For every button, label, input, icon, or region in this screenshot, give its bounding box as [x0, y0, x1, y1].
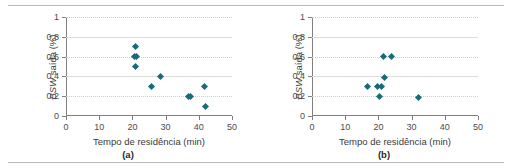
- y-tick-label-b: 1: [300, 12, 305, 22]
- x-tick-b: [312, 116, 313, 120]
- data-point-b: [380, 53, 387, 60]
- y-axis-title-b: BSW saída (%): [293, 34, 304, 99]
- data-point-b: [376, 93, 383, 100]
- x-tick-label-a: 50: [227, 122, 237, 132]
- x-tick-b: [345, 116, 346, 120]
- x-tick-label-b: 20: [373, 122, 383, 132]
- x-tick-label-a: 30: [161, 122, 171, 132]
- x-tick-label-a: 10: [94, 122, 104, 132]
- gridline-y-a: [66, 17, 232, 18]
- x-axis-title-b: Tempo de residência (min): [339, 136, 451, 147]
- x-tick-a: [232, 116, 233, 120]
- y-tick-label-b: 0,4: [292, 71, 305, 81]
- y-tick-label-a: 0,4: [46, 71, 59, 81]
- panel-caption-a: (a): [122, 149, 134, 160]
- gridline-y-b: [312, 17, 478, 18]
- y-tick-label-b: 0: [300, 111, 305, 121]
- x-axis-title-a: Tempo de residência (min): [93, 136, 205, 147]
- gridline-y-b: [312, 57, 478, 58]
- y-tick-label-a: 0: [54, 111, 59, 121]
- top-divider-rule: [8, 5, 504, 6]
- gridline-y-b: [312, 96, 478, 97]
- x-tick-a: [199, 116, 200, 120]
- y-tick-label-a: 0,2: [46, 91, 59, 101]
- gridline-y-a: [66, 37, 232, 38]
- data-point-a: [202, 103, 209, 110]
- x-tick-b: [378, 116, 379, 120]
- data-point-b: [381, 74, 388, 81]
- x-tick-b: [445, 116, 446, 120]
- data-point-a: [132, 43, 139, 50]
- x-tick-label-b: 30: [407, 122, 417, 132]
- y-tick-a: [62, 76, 66, 77]
- data-point-a: [148, 83, 155, 90]
- panel-caption-b: (b): [378, 149, 390, 160]
- plot-area-a: BSW saída (%) Tempo de residência (min) …: [66, 17, 232, 116]
- data-point-a: [132, 63, 139, 70]
- x-tick-label-a: 0: [63, 122, 68, 132]
- x-tick-label-b: 40: [440, 122, 450, 132]
- chart-panel-a: BSW saída (%) Tempo de residência (min) …: [0, 8, 256, 160]
- plot-area-b: BSW saída (%) Tempo de residência (min) …: [312, 17, 478, 116]
- y-axis-line-b: [312, 17, 313, 116]
- gridline-y-b: [312, 76, 478, 77]
- y-tick-label-b: 0,2: [292, 91, 305, 101]
- y-tick-label-b: 0,8: [292, 32, 305, 42]
- y-tick-label-b: 0,6: [292, 52, 305, 62]
- y-tick-label-a: 0,6: [46, 52, 59, 62]
- y-tick-a: [62, 37, 66, 38]
- gridline-y-a: [66, 57, 232, 58]
- y-axis-title-a: BSW saída (%): [47, 34, 58, 99]
- bottom-divider-rule: [8, 162, 504, 163]
- y-tick-b: [308, 37, 312, 38]
- data-point-a: [157, 73, 164, 80]
- x-tick-label-a: 20: [127, 122, 137, 132]
- data-point-a: [201, 83, 208, 90]
- x-tick-a: [99, 116, 100, 120]
- figure-container: BSW saída (%) Tempo de residência (min) …: [0, 0, 512, 168]
- data-point-b: [415, 94, 422, 101]
- x-tick-a: [66, 116, 67, 120]
- y-tick-a: [62, 96, 66, 97]
- panels-row: BSW saída (%) Tempo de residência (min) …: [0, 8, 512, 160]
- y-axis-line-a: [66, 17, 67, 116]
- y-tick-b: [308, 96, 312, 97]
- x-tick-b: [478, 116, 479, 120]
- x-tick-label-b: 10: [340, 122, 350, 132]
- y-tick-a: [62, 57, 66, 58]
- x-tick-a: [132, 116, 133, 120]
- x-tick-b: [412, 116, 413, 120]
- y-tick-label-a: 1: [54, 12, 59, 22]
- x-tick-label-b: 0: [309, 122, 314, 132]
- y-tick-label-a: 0,8: [46, 32, 59, 42]
- x-tick-label-b: 50: [473, 122, 483, 132]
- gridline-y-b: [312, 37, 478, 38]
- y-tick-a: [62, 17, 66, 18]
- data-point-a: [187, 93, 194, 100]
- y-tick-b: [308, 57, 312, 58]
- x-axis-line-b: [312, 115, 478, 116]
- x-tick-a: [166, 116, 167, 120]
- y-tick-b: [308, 76, 312, 77]
- chart-panel-b: BSW saída (%) Tempo de residência (min) …: [256, 8, 512, 160]
- data-point-b: [364, 83, 371, 90]
- y-tick-b: [308, 17, 312, 18]
- data-point-b: [387, 53, 394, 60]
- x-tick-label-a: 40: [194, 122, 204, 132]
- x-axis-line-a: [66, 115, 232, 116]
- gridline-y-a: [66, 76, 232, 77]
- gridline-y-a: [66, 96, 232, 97]
